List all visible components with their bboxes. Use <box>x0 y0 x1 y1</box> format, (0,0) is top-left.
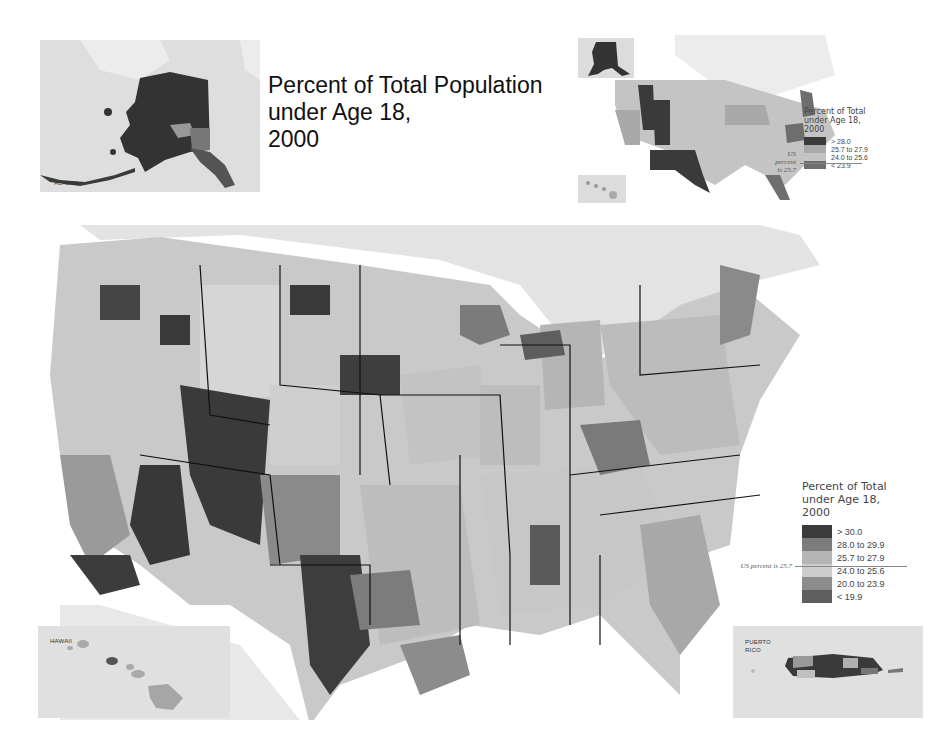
legend-swatch <box>802 551 832 564</box>
hawaii-label: HAWAII <box>50 638 72 644</box>
county-legend-item: 28.0 to 29.9 <box>802 538 887 551</box>
state-legend-item: 24.0 to 25.6 <box>804 153 868 161</box>
legend-swatch <box>802 538 832 551</box>
county-legend-title-2: under Age 18, <box>802 493 887 506</box>
state-legend: Percent of Total under Age 18, 2000 > 28… <box>804 107 868 169</box>
legend-swatch <box>804 153 826 161</box>
legend-swatch <box>802 590 832 603</box>
hawaii-inset: HAWAII <box>38 626 230 718</box>
county-us-reference-line <box>795 566 907 567</box>
state-hawaii-inset <box>578 175 626 203</box>
state-legend-title-3: 2000 <box>804 125 868 134</box>
map-title: Percent of Total Population under Age 18… <box>268 72 542 153</box>
puerto-rico-label: PUERTO RICO <box>745 638 771 654</box>
county-legend-item: 25.7 to 27.9 <box>802 551 887 564</box>
title-line-3: 2000 <box>268 126 542 153</box>
state-us-reference-line <box>800 163 862 164</box>
county-legend: Percent of Total under Age 18, 2000 > 30… <box>802 480 887 603</box>
alaska-map <box>40 40 260 192</box>
state-us-reference-label: US percent is 25.7 <box>770 150 796 174</box>
state-legend-item: > 28.0 <box>804 137 868 145</box>
legend-swatch <box>802 525 832 538</box>
title-line-2: under Age 18, <box>268 99 542 126</box>
state-legend-title-2: under Age 18, <box>804 116 868 125</box>
state-alaska-inset <box>578 38 634 78</box>
county-legend-title-1: Percent of Total <box>802 480 887 493</box>
title-line-1: Percent of Total Population <box>268 72 542 99</box>
county-legend-item: < 19.9 <box>802 590 887 603</box>
state-level-inset <box>575 35 935 205</box>
county-legend-item: 20.0 to 23.9 <box>802 577 887 590</box>
state-legend-title-1: Percent of Total <box>804 107 868 116</box>
alaska-label: ALASKA <box>54 180 79 186</box>
county-legend-item: > 30.0 <box>802 525 887 538</box>
legend-swatch <box>804 145 826 153</box>
county-us-reference-label: US percent is 25.7 <box>700 562 792 570</box>
state-legend-item: 25.7 to 27.9 <box>804 145 868 153</box>
legend-swatch <box>804 137 826 145</box>
puerto-rico-inset: PUERTO RICO <box>733 626 923 718</box>
county-legend-title-3: 2000 <box>802 506 887 519</box>
legend-swatch <box>802 577 832 590</box>
alaska-inset: ALASKA <box>40 40 260 192</box>
